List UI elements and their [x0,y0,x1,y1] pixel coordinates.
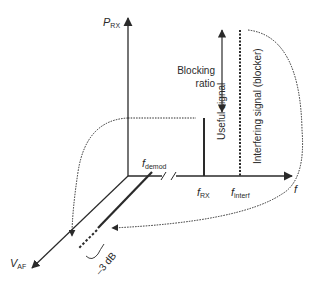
f-interf-subscript: interf [234,192,250,199]
interfering-signal-label: Interfering signal (blocker) [252,48,263,164]
vaf-subscript: AF [17,263,26,270]
vaf-axis-label: VAF [10,257,26,270]
blocking-ratio-label: Blocking ratio [171,64,215,90]
minus-3db-bracket [86,244,104,259]
demod-response-dashed [78,230,97,249]
useful-signal-label: Useful signal [216,83,227,140]
prx-axis-label: PRX [103,16,120,29]
f-rx-label: fRX [197,186,210,199]
blocking-ratio-line1: Blocking [171,64,215,77]
useful-mapping-curve [72,118,128,236]
f-interf-label: finterf [231,186,250,199]
blocking-ratio-diagram [0,0,315,287]
blocking-ratio-line2: ratio [171,77,215,90]
prx-subscript: RX [110,22,120,29]
f-demod-label: fdemod [142,157,166,170]
f-axis-label: f [294,183,297,195]
axis-break-mark-2 [171,172,176,180]
demod-response-solid [98,172,152,228]
f-demod-subscript: demod [145,163,166,170]
f-symbol: f [294,183,297,195]
f-rx-subscript: RX [200,192,210,199]
